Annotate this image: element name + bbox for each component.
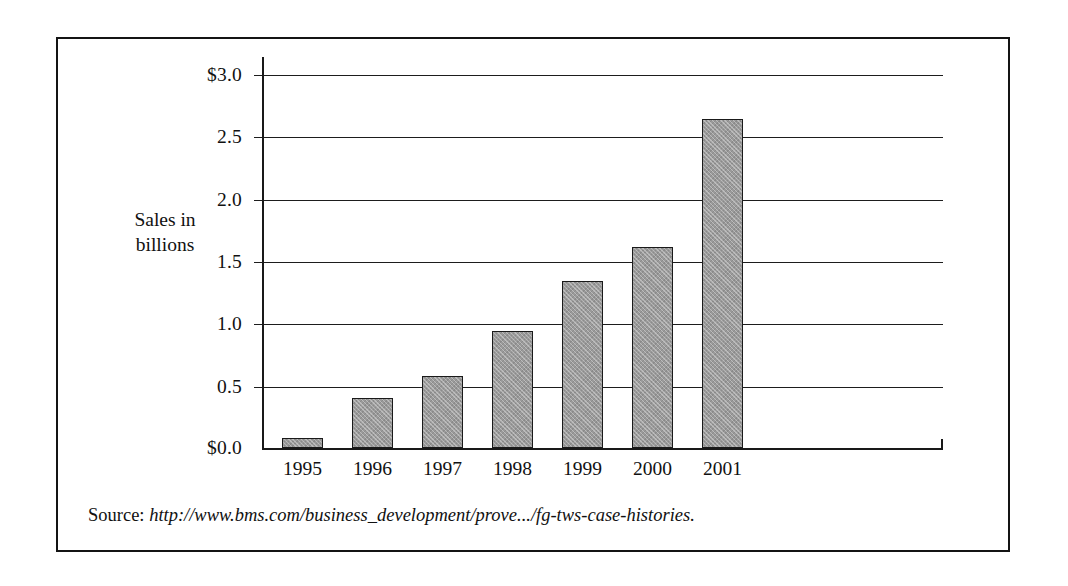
- y-axis-title: Sales in billions: [100, 207, 230, 257]
- gridline-2-5: [262, 137, 943, 138]
- y-tick-label-3-0: $3.0: [172, 65, 242, 85]
- bar-1996: [352, 398, 393, 448]
- y-tick-label-0-0: $0.0: [172, 438, 242, 458]
- source-url-text: http://www.bms.com/business_development/…: [149, 505, 695, 525]
- bar-1995: [282, 438, 323, 448]
- y-tick-label-wrap-0-5: 0.5: [172, 377, 242, 397]
- gridline-1-5: [262, 262, 943, 263]
- figure-container: $3.0 2.5 2.0 1.5 1.0 0.5 $0.0 Sales in b…: [0, 0, 1068, 586]
- bar-2000: [632, 247, 673, 448]
- x-axis-line: [262, 448, 943, 450]
- y-axis-line: [262, 57, 264, 448]
- y-axis-title-line1: Sales in: [134, 209, 195, 230]
- y-tick-label-2-5: 2.5: [172, 127, 242, 147]
- gridline-2-0: [262, 200, 943, 201]
- y-axis-title-line2: billions: [136, 234, 195, 255]
- bar-1998: [492, 331, 533, 448]
- y-tick-label-wrap-3-0: $3.0: [172, 65, 242, 85]
- bar-1997: [422, 376, 463, 448]
- y-tick-label-0-5: 0.5: [172, 377, 242, 397]
- bar-chart-plot-area: $3.0 2.5 2.0 1.5 1.0 0.5 $0.0 Sales in b…: [0, 0, 1068, 586]
- y-tick-label-wrap-0-0: $0.0: [172, 438, 242, 458]
- y-tick-label-wrap-1-0: 1.0: [172, 314, 242, 334]
- gridline-3-0: [262, 75, 943, 76]
- bar-1999: [562, 281, 603, 448]
- bar-2001: [702, 119, 743, 448]
- x-axis-end-tick: [941, 439, 943, 449]
- source-label: Source:: [88, 505, 145, 525]
- source-caption: Source: http://www.bms.com/business_deve…: [88, 503, 695, 527]
- y-tick-label-1-0: 1.0: [172, 314, 242, 334]
- x-tick-label-2001: 2001: [668, 458, 778, 480]
- y-tick-label-wrap-2-5: 2.5: [172, 127, 242, 147]
